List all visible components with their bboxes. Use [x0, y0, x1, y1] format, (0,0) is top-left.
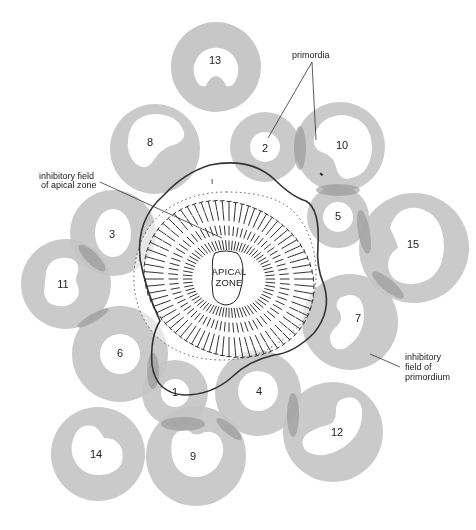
primordium-number-3: 3 — [109, 228, 115, 240]
primordium-number-12: 12 — [331, 426, 343, 438]
primordium-8 — [110, 104, 200, 194]
apical-field-label-line2: of apical zone — [41, 180, 97, 190]
primordium-number-13: 13 — [209, 54, 221, 66]
primordium-number-8: 8 — [147, 136, 153, 148]
primordium-number-14: 14 — [90, 448, 102, 460]
apical-inhibitory-field: APICAL ZONE — [134, 192, 316, 360]
primordium-number-11: 11 — [57, 278, 68, 290]
phyllotaxis-diagram: APICAL ZONE I 1 2 3 4 5 6 7 8 9 10 11 12… — [0, 0, 476, 530]
apical-label-line1: APICAL — [212, 266, 247, 277]
primordium-number-9: 9 — [190, 450, 196, 462]
primordium-number-1: 1 — [172, 386, 178, 398]
primordium-number-15: 15 — [407, 238, 419, 250]
primordium-field-label-line2: field of — [405, 362, 432, 372]
primordium-number-4: 4 — [256, 385, 262, 397]
primordium-number-10: 10 — [336, 139, 348, 151]
primordium-number-2: 2 — [262, 142, 268, 154]
primordium-13 — [171, 22, 261, 112]
apical-label-line2: ZONE — [215, 277, 242, 288]
primordium-field-label-line1: inhibitory — [405, 352, 442, 362]
primordium-field-label-line3: primordium — [405, 372, 450, 382]
primordium-number-5: 5 — [335, 210, 341, 222]
primordium-number-7: 7 — [355, 312, 361, 324]
incipient-site-mark: I — [211, 177, 213, 186]
primordium-number-6: 6 — [117, 347, 123, 359]
primordia-label: primordia — [292, 50, 330, 60]
